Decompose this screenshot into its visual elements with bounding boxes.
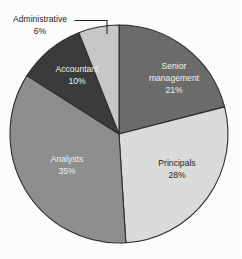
pie-chart-figure: Senior management 21% Principals 28% Ana… <box>0 0 242 259</box>
slice-label-analysts: Analysts <box>51 154 83 164</box>
slice-label-principals: Principals <box>158 158 195 168</box>
slice-label-accountant: Accountant <box>56 64 100 74</box>
slice-value-analysts: 35% <box>58 166 76 176</box>
slice-value-accountant: 10% <box>68 76 86 86</box>
slice-value-senior-management: 21% <box>165 85 183 95</box>
pie-chart-svg: Senior management 21% Principals 28% Ana… <box>0 0 242 259</box>
callout-label-administrative: Administrative <box>13 14 67 24</box>
callout-value-administrative: 6% <box>34 26 47 36</box>
slice-label-senior-management-line1: Senior <box>162 61 187 71</box>
slice-value-principals: 28% <box>168 170 186 180</box>
slice-label-senior-management-line2: management <box>149 73 200 83</box>
